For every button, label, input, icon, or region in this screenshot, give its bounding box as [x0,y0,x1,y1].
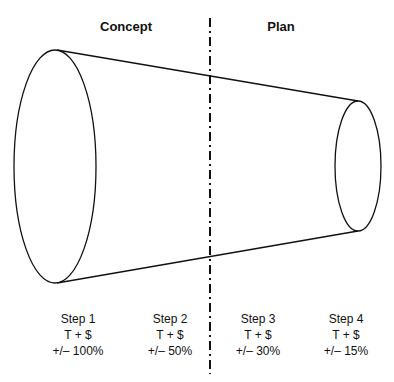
funnel-top-edge [57,50,358,101]
step-tolerance: +/– 50% [148,343,192,359]
step-name: Step 2 [148,311,192,327]
step-measure: T + $ [324,327,368,343]
step-measure: T + $ [148,327,192,343]
step-3: Step 3 T + $ +/– 30% [236,311,280,359]
phase-label-plan: Plan [267,19,294,34]
step-measure: T + $ [52,327,103,343]
funnel-bottom-edge [57,231,358,283]
step-name: Step 1 [52,311,103,327]
step-tolerance: +/– 30% [236,343,280,359]
step-2: Step 2 T + $ +/– 50% [148,311,192,359]
step-1: Step 1 T + $ +/– 100% [52,311,103,359]
step-measure: T + $ [236,327,280,343]
phase-label-concept: Concept [100,19,152,34]
step-tolerance: +/– 100% [52,343,103,359]
funnel-narrow-end [335,101,381,231]
funnel-wide-end [14,50,96,283]
step-name: Step 3 [236,311,280,327]
step-4: Step 4 T + $ +/– 15% [324,311,368,359]
step-tolerance: +/– 15% [324,343,368,359]
step-name: Step 4 [324,311,368,327]
